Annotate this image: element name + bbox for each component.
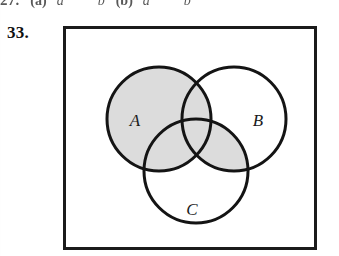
set-label-B: B bbox=[253, 111, 264, 130]
clipped-part-b-label: (b) bbox=[116, 0, 133, 8]
venn-diagram-figure: A B C bbox=[62, 25, 318, 251]
set-label-C: C bbox=[186, 200, 198, 219]
exercise-number: 33. bbox=[7, 23, 29, 43]
clipped-part-a-var2: b bbox=[98, 0, 105, 8]
clipped-part-a-var1: a bbox=[57, 0, 64, 8]
set-label-A: A bbox=[129, 111, 141, 130]
clipped-part-b-var1: a bbox=[143, 0, 150, 8]
clipped-part-a-label: (a) bbox=[30, 0, 46, 8]
clipped-exercise-number: 27. bbox=[0, 0, 19, 8]
clipped-previous-exercise-line: 27. (a) a b (b) a b bbox=[0, 0, 339, 9]
clipped-part-b-var2: b bbox=[184, 0, 191, 8]
